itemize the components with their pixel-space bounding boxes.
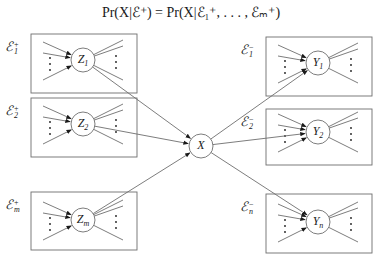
- parent-arrow: [278, 204, 306, 217]
- parent-arrow: [278, 114, 306, 127]
- node-label: Yn: [306, 215, 330, 230]
- ellipsis-dots-icon: [49, 57, 51, 59]
- evidence-label: ℰ−n: [240, 200, 254, 215]
- child-line: [329, 227, 358, 242]
- parent-arrow: [43, 226, 71, 240]
- edge-z-to-x: [93, 67, 191, 138]
- ellipsis-dots-icon: [284, 219, 286, 221]
- edge-x-to-y: [211, 71, 308, 140]
- node-label: Z2: [71, 117, 95, 132]
- child-line: [94, 225, 123, 240]
- evidence-label: ℰ+m: [5, 198, 20, 213]
- edge-z-to-x: [93, 153, 190, 214]
- ellipsis-dots-icon: [284, 66, 286, 68]
- parent-arrow: [43, 213, 70, 218]
- ellipsis-dots-icon: [350, 58, 352, 60]
- ellipsis-dots-icon: [115, 215, 117, 217]
- node-label: Y2: [306, 125, 330, 140]
- ellipsis-dots-icon: [115, 119, 117, 121]
- ellipsis-dots-icon: [350, 229, 352, 231]
- evidence-label: ℰ−2: [240, 115, 254, 130]
- parent-arrow: [43, 130, 71, 144]
- ellipsis-dots-icon: [115, 227, 117, 229]
- parent-arrow: [278, 138, 306, 152]
- ellipsis-dots-icon: [350, 70, 352, 72]
- parent-arrow: [43, 66, 71, 80]
- ellipsis-dots-icon: [350, 127, 352, 129]
- node-label: Z1: [71, 53, 95, 68]
- ellipsis-dots-icon: [49, 229, 51, 231]
- ellipsis-dots-icon: [284, 129, 286, 131]
- ellipsis-dots-icon: [115, 55, 117, 57]
- ellipsis-dots-icon: [350, 139, 352, 141]
- parent-arrow: [43, 106, 71, 119]
- parent-arrow: [278, 125, 305, 130]
- parent-arrow: [278, 56, 305, 61]
- ellipsis-dots-icon: [49, 63, 51, 65]
- child-line: [94, 65, 123, 80]
- parent-arrow: [278, 45, 306, 58]
- parent-arrow: [43, 202, 71, 215]
- parent-arrow: [43, 117, 70, 122]
- center-node-label: X: [189, 139, 213, 151]
- ellipsis-dots-icon: [49, 121, 51, 123]
- parent-arrow: [278, 228, 306, 242]
- ellipsis-dots-icon: [49, 133, 51, 135]
- parent-arrow: [278, 215, 305, 220]
- child-line: [329, 137, 358, 152]
- edge-x-to-y: [213, 134, 305, 145]
- ellipsis-dots-icon: [284, 72, 286, 74]
- ellipsis-dots-icon: [350, 217, 352, 219]
- ellipsis-dots-icon: [284, 60, 286, 62]
- ellipsis-dots-icon: [49, 69, 51, 71]
- ellipsis-dots-icon: [284, 225, 286, 227]
- ellipsis-dots-icon: [350, 64, 352, 66]
- ellipsis-dots-icon: [115, 221, 117, 223]
- parent-arrow: [43, 42, 71, 55]
- ellipsis-dots-icon: [115, 125, 117, 127]
- ellipsis-dots-icon: [350, 133, 352, 135]
- node-label: Y1: [306, 56, 330, 71]
- evidence-label: ℰ−1: [240, 43, 254, 58]
- ellipsis-dots-icon: [115, 131, 117, 133]
- ellipsis-dots-icon: [284, 231, 286, 233]
- parent-arrow: [43, 53, 70, 58]
- evidence-label: ℰ+2: [5, 104, 19, 119]
- edge-z-to-x: [95, 126, 188, 143]
- edge-x-to-y: [211, 153, 307, 215]
- ellipsis-dots-icon: [284, 141, 286, 143]
- ellipsis-dots-icon: [49, 223, 51, 225]
- ellipsis-dots-icon: [49, 217, 51, 219]
- child-line: [94, 129, 123, 144]
- evidence-label: ℰ+1: [5, 40, 19, 55]
- ellipsis-dots-icon: [115, 67, 117, 69]
- child-line: [329, 68, 358, 83]
- ellipsis-dots-icon: [350, 223, 352, 225]
- ellipsis-dots-icon: [115, 61, 117, 63]
- ellipsis-dots-icon: [49, 127, 51, 129]
- node-label: Zm: [71, 213, 95, 228]
